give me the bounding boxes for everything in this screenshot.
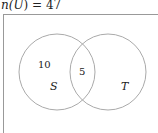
s-only-count: 10 bbox=[38, 59, 51, 70]
set-s-label: S bbox=[50, 80, 58, 93]
venn-diagram: 10 5 S T bbox=[0, 0, 158, 133]
intersection-count: 5 bbox=[79, 66, 85, 77]
set-t-label: T bbox=[121, 80, 130, 93]
